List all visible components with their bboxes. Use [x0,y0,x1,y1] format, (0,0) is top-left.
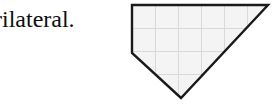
grid-pentagon-svg [0,0,273,110]
figure-container [0,0,273,110]
figure-page: rilateral. [0,0,273,110]
